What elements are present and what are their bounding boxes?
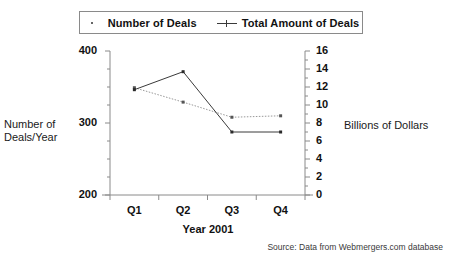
plot-area: 2003004000246810121416Q1Q2Q3Q4	[0, 0, 450, 257]
data-point-marker	[182, 70, 185, 73]
axes-group	[102, 51, 313, 200]
series-line-segment	[134, 88, 183, 102]
left-axis-tick-label: 400	[63, 44, 97, 56]
right-axis-tick-label: 10	[316, 98, 336, 110]
data-point-marker	[230, 131, 233, 134]
series-line-segment	[232, 116, 281, 117]
right-axis-tick-label: 14	[316, 62, 336, 74]
right-axis-tick-label: 2	[316, 170, 336, 182]
plot-svg	[0, 0, 450, 257]
right-axis-tick-label: 6	[316, 134, 336, 146]
data-point-marker	[182, 101, 185, 104]
series-line-segment	[183, 72, 232, 132]
right-axis-tick-label: 0	[316, 188, 336, 200]
data-point-marker	[133, 88, 136, 91]
data-point-marker	[279, 114, 282, 117]
left-axis-tick-label: 300	[63, 116, 97, 128]
series-2	[133, 70, 282, 133]
series-line-segment	[134, 72, 183, 90]
x-axis-tick-label: Q3	[212, 204, 252, 216]
series-group	[133, 70, 282, 133]
right-axis-tick-label: 16	[316, 44, 336, 56]
x-axis-tick-label: Q2	[163, 204, 203, 216]
data-point-marker	[279, 131, 282, 134]
left-axis-tick-label: 200	[63, 188, 97, 200]
data-point-marker	[230, 116, 233, 119]
right-axis-tick-label: 4	[316, 152, 336, 164]
x-axis-tick-label: Q1	[114, 204, 154, 216]
series-line-segment	[183, 102, 232, 117]
right-axis-tick-label: 8	[316, 116, 336, 128]
right-axis-tick-label: 12	[316, 80, 336, 92]
chart-figure: Number of Deals Total Amount of Deals Nu…	[0, 0, 450, 257]
x-axis-tick-label: Q4	[261, 204, 301, 216]
